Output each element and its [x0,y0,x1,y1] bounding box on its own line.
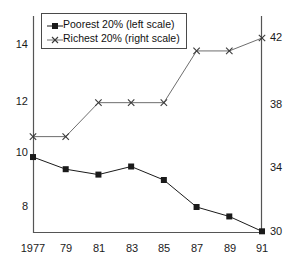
square-marker-icon [47,18,63,30]
right-axis-tick-38: 38 [270,98,296,110]
data-point-marker [128,164,134,170]
right-axis-tick-42: 42 [270,31,296,43]
legend-item-poorest: Poorest 20% (left scale) [47,17,180,31]
data-point-marker [259,228,265,234]
x-axis-tick-91: 91 [242,242,282,254]
legend-label-poorest: Poorest 20% (left scale) [63,18,174,30]
data-point-marker [95,172,101,178]
right-axis-tick-34: 34 [270,161,296,173]
data-point-marker [194,204,200,210]
data-point-marker [161,177,167,183]
legend-item-richest: Richest 20% (right scale) [47,31,180,45]
left-axis-tick-10: 10 [2,146,28,158]
left-axis-tick-8: 8 [2,200,28,212]
left-axis-tick-14: 14 [2,38,28,50]
right-axis-tick-30: 30 [270,225,296,237]
data-point-marker [30,154,36,160]
data-point-marker [63,166,69,172]
chart-container: 14 12 10 8 42 38 34 30 1977 79 81 83 85 … [0,0,301,267]
series-richest-20 [30,35,265,140]
data-point-marker [226,213,232,219]
x-marker-icon [47,32,63,44]
chart-legend: Poorest 20% (left scale) Richest 20% (ri… [41,13,187,49]
series-poorest-20 [30,154,265,234]
left-axis-tick-12: 12 [2,95,28,107]
legend-label-richest: Richest 20% (right scale) [63,32,180,44]
